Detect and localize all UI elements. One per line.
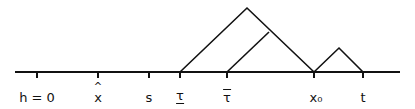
label-x0: x₀ [310, 91, 323, 104]
label-h0: h = 0 [19, 91, 55, 104]
label-xhat: ^ x [94, 91, 102, 104]
label-s: s [146, 91, 153, 104]
timeline-tree-diagram [0, 0, 415, 109]
tree-branches [180, 8, 363, 72]
label-tau-under: τ [176, 89, 184, 104]
inner-branch [227, 32, 269, 72]
label-t: t [360, 91, 365, 104]
small-triangle [314, 48, 363, 72]
label-xhat-text: x [94, 90, 102, 105]
hat-accent: ^ [94, 82, 102, 92]
big-triangle [180, 8, 314, 72]
label-tau-over: τ [223, 89, 231, 104]
